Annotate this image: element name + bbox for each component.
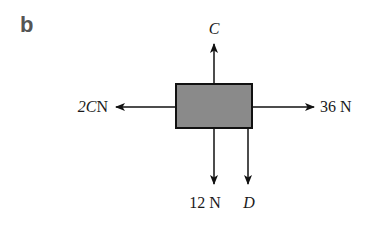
force-label-down-left: 12 N — [189, 194, 221, 211]
part-label: b — [20, 14, 33, 36]
force-label-down-right: D — [242, 194, 255, 211]
force-label-left-unit: N — [96, 98, 108, 115]
free-body-diagram: b C 2CN 36 N 12 N D — [0, 0, 374, 228]
force-label-left: 2CN — [78, 98, 109, 115]
force-label-right: 36 N — [320, 98, 352, 115]
diagram-svg: C 2CN 36 N 12 N D — [0, 0, 374, 228]
force-label-left-var: 2C — [78, 98, 97, 115]
object-box — [176, 84, 252, 128]
force-label-up: C — [209, 20, 220, 37]
